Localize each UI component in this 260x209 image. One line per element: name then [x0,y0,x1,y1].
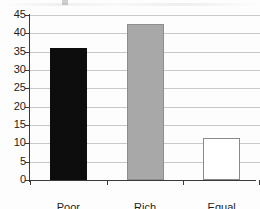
x-axis-label-equal: Equal [208,202,236,209]
y-axis-line [29,14,30,182]
y-axis-tick-label: 25 [0,82,26,93]
y-axis-tick-label: 15 [0,119,26,130]
x-axis-tick-mark [107,180,108,185]
x-axis-label-poor: Poor [57,202,80,209]
scan-artifact-speck [62,0,68,5]
y-axis-tick-label: 40 [0,27,26,38]
y-axis-tick-label: 45 [0,9,26,20]
y-axis-tick-label: 35 [0,46,26,57]
y-axis-tick-label: 5 [0,156,26,167]
plot-area: 051015202530354045PoorRichEqual [30,15,260,180]
x-axis-tick-mark [30,180,31,185]
y-axis-tick-label: 30 [0,64,26,75]
bar-equal [203,138,240,180]
gridline [30,15,260,16]
y-axis-tick-label: 0 [0,174,26,185]
bar-rich [127,24,164,180]
bar-poor [50,48,87,180]
scan-artifact [0,3,260,6]
y-axis-tick-label: 10 [0,137,26,148]
x-axis-label-rich: Rich [134,202,156,209]
y-axis-tick-label: 20 [0,101,26,112]
bar-chart: 051015202530354045PoorRichEqual [0,0,260,209]
x-axis-tick-mark [259,180,260,185]
x-axis-tick-mark [183,180,184,185]
x-axis-baseline [30,180,256,181]
